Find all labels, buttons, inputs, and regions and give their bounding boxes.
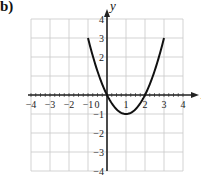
x-tick-label: 1 xyxy=(124,99,129,110)
x-tick-label: −3 xyxy=(45,99,56,110)
y-tick-label: −1 xyxy=(93,109,104,120)
x-tick-label: 3 xyxy=(162,99,167,110)
y-axis-label: y xyxy=(108,0,116,13)
x-tick-label: 4 xyxy=(181,99,186,110)
y-tick-label: 4 xyxy=(99,14,104,25)
x-axis-arrow-icon xyxy=(191,92,199,98)
y-tick-label: −2 xyxy=(93,128,104,139)
x-tick-label: −2 xyxy=(64,99,75,110)
parabola-chart: xy−4−3−2−101234432−1−2−3−4 xyxy=(0,0,201,179)
x-tick-label: −1 xyxy=(83,99,94,110)
x-tick-label: −4 xyxy=(26,99,37,110)
y-tick-label: 2 xyxy=(99,52,104,63)
y-tick-label: −3 xyxy=(93,147,104,158)
x-tick-label: 2 xyxy=(143,99,148,110)
y-tick-label: 3 xyxy=(99,33,104,44)
x-axis-label: x xyxy=(200,87,201,102)
y-tick-label: −4 xyxy=(93,166,104,177)
